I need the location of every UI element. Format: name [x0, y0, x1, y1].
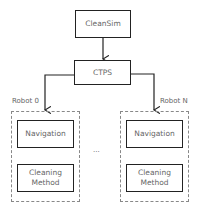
robot-0-navigation-label: Navigation: [25, 129, 65, 139]
ellipsis: ...: [93, 146, 100, 154]
robot-n-label: Robot N: [160, 97, 188, 105]
cleansim-label: CleanSim: [85, 19, 120, 29]
robot-n-cleaning-method-label: Cleaning Method: [137, 168, 172, 188]
robot-0-label: Robot 0: [12, 97, 39, 105]
robot-0-cleaning-method-label: Cleaning Method: [28, 168, 63, 188]
arrow-ctps-to-robot-n: [131, 74, 154, 110]
ctps-label: CTPS: [93, 68, 112, 78]
arrow-ctps-to-robot-0: [45, 75, 74, 110]
cleansim-node: CleanSim: [75, 10, 131, 38]
robot-n-navigation-label: Navigation: [134, 129, 174, 139]
robot-0-cleaning-method-node: Cleaning Method: [17, 164, 74, 192]
robot-n-cleaning-method-node: Cleaning Method: [126, 164, 183, 192]
ctps-node: CTPS: [74, 60, 131, 85]
robot-n-navigation-node: Navigation: [126, 120, 183, 148]
robot-0-navigation-node: Navigation: [17, 120, 74, 148]
